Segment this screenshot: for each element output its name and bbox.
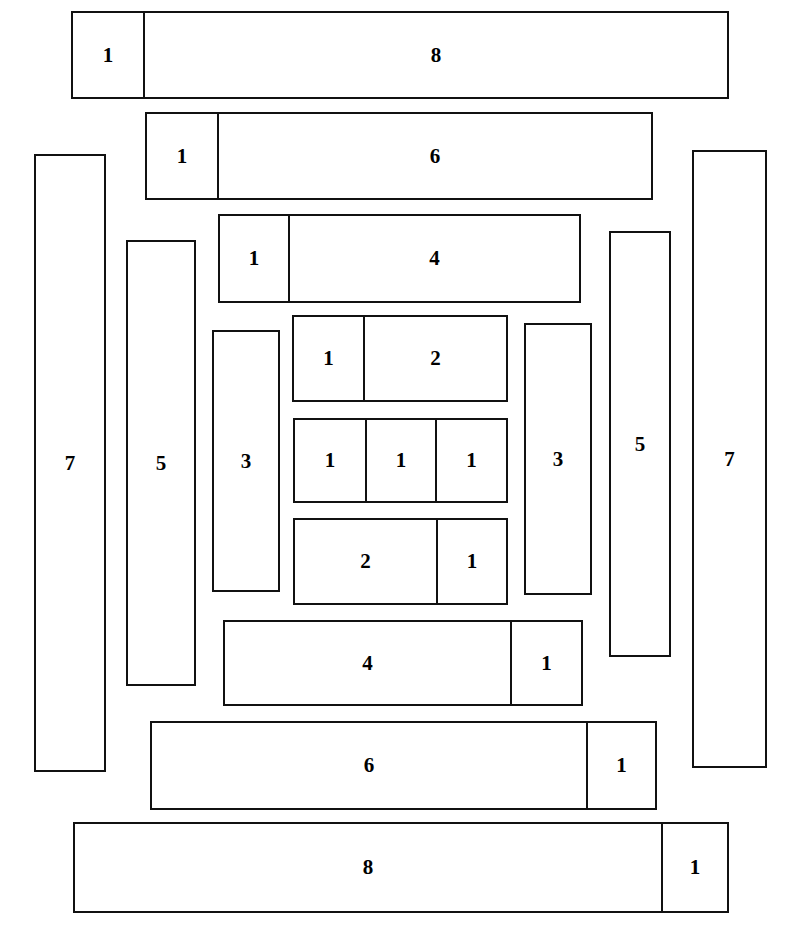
block-label: 8 — [363, 857, 374, 878]
block-label: 6 — [430, 146, 441, 167]
row-1-6: 16 — [145, 112, 653, 200]
row-bottom-8-1: 81 — [73, 822, 729, 913]
block-label: 1 — [103, 45, 114, 66]
block-cell[interactable]: 8 — [73, 822, 663, 913]
block-cell[interactable]: 6 — [217, 112, 653, 200]
block-label: 4 — [362, 653, 373, 674]
block-cell[interactable]: 1 — [292, 315, 365, 402]
block-cell[interactable]: 1 — [435, 418, 508, 503]
block-label: 1 — [323, 348, 334, 369]
block-cell[interactable]: 2 — [363, 315, 508, 402]
block-label: 1 — [541, 653, 552, 674]
row-1-1-1: 111 — [293, 418, 508, 503]
block-label: 8 — [431, 45, 442, 66]
block-cell[interactable]: 1 — [661, 822, 729, 913]
block-label: 1 — [249, 248, 260, 269]
block-label: 1 — [616, 755, 627, 776]
row-6-1: 61 — [150, 721, 657, 810]
row-top-1-8: 18 — [71, 11, 729, 99]
bar-left-3[interactable]: 3 — [212, 330, 280, 592]
block-cell[interactable]: 1 — [293, 418, 367, 503]
block-label: 1 — [177, 146, 188, 167]
block-cell[interactable]: 1 — [365, 418, 437, 503]
block-cell[interactable]: 1 — [71, 11, 145, 99]
block-cell[interactable]: 2 — [293, 518, 438, 605]
block-label: 1 — [690, 857, 701, 878]
block-label: 3 — [553, 449, 564, 470]
block-cell[interactable]: 1 — [436, 518, 508, 605]
block-cell[interactable]: 1 — [586, 721, 657, 810]
block-layout-diagram: 1816141211121416181753357 — [0, 0, 802, 936]
block-label: 1 — [396, 450, 407, 471]
block-label: 1 — [467, 551, 478, 572]
block-label: 2 — [430, 348, 441, 369]
row-1-4: 14 — [218, 214, 581, 303]
bar-right-3[interactable]: 3 — [524, 323, 592, 595]
block-cell[interactable]: 1 — [218, 214, 290, 303]
row-1-2: 12 — [292, 315, 508, 402]
block-label: 3 — [241, 451, 252, 472]
block-label: 1 — [325, 450, 336, 471]
bar-right-5[interactable]: 5 — [609, 231, 671, 657]
block-label: 7 — [724, 449, 735, 470]
block-label: 5 — [156, 453, 167, 474]
block-label: 1 — [466, 450, 477, 471]
block-cell[interactable]: 6 — [150, 721, 588, 810]
row-2-1: 21 — [293, 518, 508, 605]
bar-left-5[interactable]: 5 — [126, 240, 196, 686]
block-label: 7 — [65, 453, 76, 474]
row-4-1: 41 — [223, 620, 583, 706]
block-label: 5 — [635, 434, 646, 455]
block-label: 6 — [364, 755, 375, 776]
block-cell[interactable]: 4 — [223, 620, 512, 706]
block-cell[interactable]: 1 — [510, 620, 583, 706]
block-cell[interactable]: 4 — [288, 214, 581, 303]
bar-right-7[interactable]: 7 — [692, 150, 767, 768]
block-label: 2 — [360, 551, 371, 572]
block-cell[interactable]: 1 — [145, 112, 219, 200]
block-label: 4 — [429, 248, 440, 269]
bar-left-7[interactable]: 7 — [34, 154, 106, 772]
block-cell[interactable]: 8 — [143, 11, 729, 99]
